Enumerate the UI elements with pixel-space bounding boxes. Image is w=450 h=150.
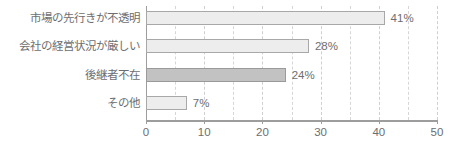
bar [146,68,286,82]
category-label: 市場の先行きが不透明 [0,11,140,25]
bar-value-label: 24% [292,68,315,82]
bar [146,11,385,25]
bar-value-label: 28% [315,39,338,53]
category-labels: 市場の先行きが不透明 会社の経営状況が厳しい 後継者不在 その他 [0,6,143,120]
bar [146,39,309,53]
category-label: 後継者不在 [0,68,140,82]
axis-tick [204,120,205,124]
category-label: 会社の経営状況が厳しい [0,39,140,53]
axis-tick [321,120,322,124]
axis-tick-label: 50 [417,126,450,139]
axis-tick [146,120,147,124]
axis-tick [437,120,438,124]
bar [146,96,187,110]
bar-value-label: 7% [193,96,210,110]
cropped-title-sliver [0,0,450,5]
axis-tick [379,120,380,124]
axis-tick-label: 30 [301,126,341,139]
horizontal-bar-chart: 市場の先行きが不透明 会社の経営状況が厳しい 後継者不在 その他 41%28%2… [0,0,450,150]
value-axis-line [146,120,437,122]
axis-tick-label: 20 [242,126,282,139]
bar-value-label: 41% [391,11,414,25]
gridline [437,6,438,120]
category-label: その他 [0,96,140,110]
axis-tick [262,120,263,124]
axis-tick-label: 0 [126,126,166,139]
axis-tick-label: 40 [359,126,399,139]
axis-tick-label: 10 [184,126,224,139]
